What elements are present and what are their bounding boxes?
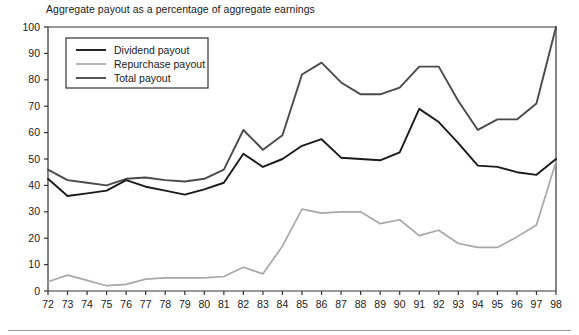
x-axis-tick-label: 77	[140, 298, 152, 310]
x-axis-tick-label: 73	[62, 298, 74, 310]
y-axis-tick-label: 90	[28, 47, 40, 59]
x-axis-tick-label: 91	[413, 298, 425, 310]
y-axis-tick-label: 50	[28, 153, 40, 165]
x-axis-tick-label: 79	[179, 298, 191, 310]
x-axis-tick-label: 82	[238, 298, 250, 310]
x-axis-tick-label: 95	[492, 298, 504, 310]
y-axis-tick-label: 70	[28, 100, 40, 112]
y-axis-tick-label: 10	[28, 258, 40, 270]
legend-label-repurchase-payout: Repurchase payout	[114, 58, 205, 70]
x-axis-tick-label: 85	[296, 298, 308, 310]
y-axis-tick-label: 20	[28, 232, 40, 244]
x-axis-tick-label: 75	[101, 298, 113, 310]
y-axis-tick-label: 80	[28, 73, 40, 85]
x-axis-tick-label: 93	[452, 298, 464, 310]
x-axis-tick-label: 88	[355, 298, 367, 310]
x-axis-tick-label: 98	[550, 298, 562, 310]
series-line-dividend-payout	[48, 109, 556, 196]
x-axis-tick-label: 87	[335, 298, 347, 310]
x-axis-tick-label: 72	[42, 298, 54, 310]
y-axis-tick-label: 100	[22, 21, 40, 33]
x-axis-tick-label: 97	[531, 298, 543, 310]
legend-label-dividend-payout: Dividend payout	[114, 44, 189, 56]
x-axis-tick-label: 76	[120, 298, 132, 310]
x-axis-tick-label: 84	[277, 298, 289, 310]
chart-figure: Aggregate payout as a percentage of aggr…	[0, 0, 579, 335]
x-axis-tick-label: 80	[198, 298, 210, 310]
x-axis-tick-label: 81	[218, 298, 230, 310]
x-axis-tick-label: 83	[257, 298, 269, 310]
x-axis-tick-label: 74	[81, 298, 93, 310]
legend-label-total-payout: Total payout	[114, 72, 171, 84]
y-axis-tick-label: 0	[34, 285, 40, 297]
x-axis-tick-label: 89	[374, 298, 386, 310]
x-axis-tick-label: 90	[394, 298, 406, 310]
x-axis-tick-label: 78	[159, 298, 171, 310]
y-axis-tick-label: 30	[28, 205, 40, 217]
y-axis-tick-label: 40	[28, 179, 40, 191]
x-axis-tick-label: 94	[472, 298, 484, 310]
x-axis-tick-label: 86	[316, 298, 328, 310]
x-axis-tick-label: 96	[511, 298, 523, 310]
line-chart-plot: 0102030405060708090100727374757677787980…	[0, 0, 579, 335]
footer-divider	[8, 330, 571, 331]
y-axis-tick-label: 60	[28, 126, 40, 138]
x-axis-tick-label: 92	[433, 298, 445, 310]
